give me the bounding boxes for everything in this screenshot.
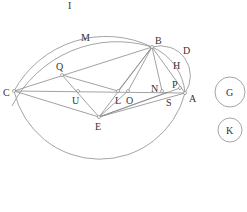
label-U: U [72, 95, 80, 106]
label-L: L [115, 95, 121, 106]
label-N: N [151, 83, 158, 94]
label-M: M [81, 32, 90, 43]
label-P: P [172, 79, 178, 90]
label-K: K [226, 125, 234, 136]
points [13, 46, 187, 119]
construction-lines [14, 47, 185, 117]
label-B: B [155, 35, 162, 46]
label-Q: Q [56, 61, 64, 72]
arc-M [14, 36, 152, 91]
label-O: O [126, 95, 133, 106]
label-G: G [226, 87, 233, 98]
label-D: D [183, 45, 190, 56]
label-I: I [68, 0, 71, 11]
geometry-diagram: A B C E L O N P S Q U I M D H G K [0, 0, 247, 212]
label-E: E [95, 121, 101, 132]
label-H: H [173, 60, 180, 71]
label-S: S [166, 97, 172, 108]
label-A: A [189, 93, 197, 104]
label-C: C [3, 87, 10, 98]
